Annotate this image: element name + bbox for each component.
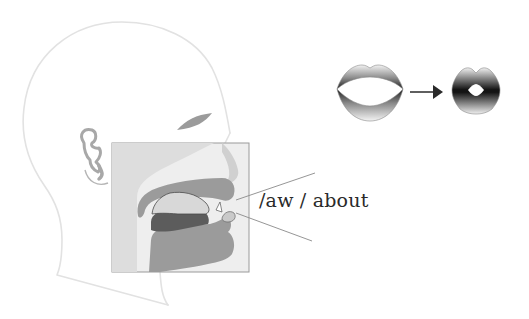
vocal-tract-inset (112, 143, 249, 272)
ear-icon (82, 130, 108, 185)
phoneme-label: /aw / about (259, 191, 368, 210)
eyebrow-shape (177, 113, 212, 130)
right-arrow-icon (410, 85, 443, 99)
open-lips-icon (337, 65, 403, 121)
articulation-diagram (0, 0, 529, 319)
rounded-lips-icon (452, 68, 500, 114)
neck-front-outline (160, 272, 168, 305)
